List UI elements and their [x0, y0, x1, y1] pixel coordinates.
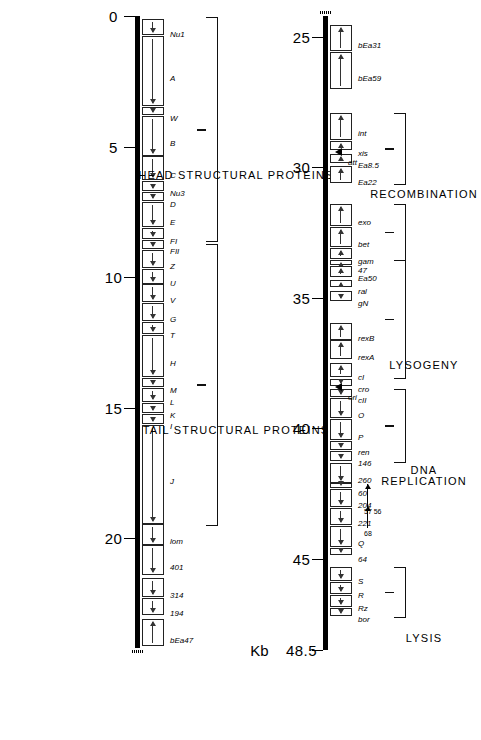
gene-box[interactable]	[142, 598, 164, 615]
gene-box[interactable]	[142, 19, 164, 35]
gene-box[interactable]	[330, 204, 352, 226]
gene-box[interactable]	[142, 228, 164, 239]
gene-label: W	[170, 114, 178, 123]
gene-box[interactable]	[330, 52, 352, 89]
gene-box[interactable]	[142, 378, 164, 387]
gene-box[interactable]	[330, 248, 352, 259]
backbone-line	[323, 16, 328, 650]
axis-tick-label: 45	[282, 550, 322, 567]
gene-direction-arrow-head	[150, 261, 156, 266]
gene-box[interactable]	[142, 269, 164, 284]
gene-direction-arrow-head	[150, 608, 156, 613]
gene-box[interactable]	[142, 116, 164, 156]
gene-box[interactable]	[142, 425, 164, 523]
callout-leader-tip	[365, 506, 371, 511]
function-group-brace	[394, 204, 406, 261]
gene-box[interactable]	[330, 291, 352, 301]
gene-direction-arrow-head	[338, 143, 344, 148]
axis-tick-label: 20	[94, 530, 134, 547]
gene-direction-arrow-head	[338, 443, 344, 448]
gene-direction-arrow-head	[150, 184, 156, 189]
gene-box[interactable]	[142, 403, 164, 413]
gene-box[interactable]	[330, 451, 352, 461]
gene-direction-arrow-head	[338, 433, 344, 438]
gene-label: A	[170, 74, 175, 83]
gene-box[interactable]	[330, 548, 352, 555]
gene-direction-arrow-head	[338, 518, 344, 523]
gene-box[interactable]	[330, 595, 352, 607]
gene-box[interactable]	[330, 25, 352, 51]
gene-box[interactable]	[330, 166, 352, 183]
gene-box[interactable]	[142, 240, 164, 249]
gene-direction-arrow-head	[338, 156, 344, 161]
gene-box[interactable]	[330, 260, 352, 265]
gene-label: 64	[358, 555, 367, 564]
function-group-brace	[206, 17, 218, 242]
axis-unit-label: Kb	[240, 642, 280, 659]
gene-label: ren	[358, 448, 370, 457]
gene-box[interactable]	[330, 526, 352, 547]
gene-box[interactable]	[330, 582, 352, 594]
gene-box[interactable]	[142, 619, 164, 646]
gene-label: Q	[358, 539, 364, 548]
gene-direction-arrow-head	[338, 206, 344, 211]
gene-box[interactable]	[142, 524, 164, 544]
gene-box[interactable]	[142, 107, 164, 115]
gene-label: K	[170, 411, 175, 420]
gene-box[interactable]	[330, 227, 352, 247]
gene-box[interactable]	[330, 489, 352, 506]
gene-box[interactable]	[330, 113, 352, 140]
gene-direction-arrow-head	[338, 609, 344, 614]
site-pointer-arrow	[335, 148, 342, 156]
gene-direction-arrow-head	[338, 250, 344, 255]
gene-label: D	[170, 200, 176, 209]
gene-direction-arrow-head	[338, 294, 344, 299]
gene-box[interactable]	[142, 192, 164, 201]
gene-box[interactable]	[142, 335, 164, 377]
gene-box[interactable]	[142, 202, 164, 227]
gene-label: Nu1	[170, 30, 185, 39]
axis-tick-label: 5	[94, 138, 134, 155]
gene-box[interactable]	[142, 250, 164, 268]
function-group-label-line: LYSOGENY	[314, 359, 481, 371]
gene-direction-arrow-head	[150, 194, 156, 199]
gene-box[interactable]	[330, 280, 352, 288]
axis-tick-label: 30	[282, 159, 322, 176]
gene-label: FII	[170, 247, 179, 256]
gene-box[interactable]	[330, 441, 352, 450]
site-pointer-arrow	[335, 383, 342, 391]
gene-box[interactable]	[330, 567, 352, 581]
gene-direction-arrow-head	[150, 232, 156, 237]
gene-box[interactable]	[330, 419, 352, 440]
gene-box[interactable]	[330, 508, 352, 525]
gene-box[interactable]	[142, 388, 164, 402]
gene-direction-arrow-shaft	[152, 119, 153, 153]
site-label: att	[348, 158, 357, 167]
gene-box[interactable]	[330, 323, 352, 340]
gene-label: bEa47	[170, 636, 193, 645]
gene-box[interactable]	[142, 36, 164, 106]
gene-direction-arrow-head	[150, 220, 156, 225]
gene-direction-arrow-head	[338, 600, 344, 605]
gene-label: Ea22	[358, 178, 377, 187]
gene-box[interactable]	[330, 340, 352, 359]
gene-box[interactable]	[142, 578, 164, 596]
axis-tick-label: 40	[282, 420, 322, 437]
gene-box[interactable]	[330, 608, 352, 616]
gene-box[interactable]	[142, 545, 164, 574]
gene-label: 401	[170, 563, 183, 572]
gene-box[interactable]	[142, 181, 164, 191]
gene-label: J	[170, 477, 174, 486]
gene-direction-arrow-shaft	[152, 338, 153, 374]
backbone-line	[135, 16, 140, 648]
gene-box[interactable]	[330, 266, 352, 277]
gene-box[interactable]	[142, 303, 164, 322]
site-label: ori	[348, 393, 357, 402]
function-group-label-line: RECOMBINATION	[314, 188, 481, 200]
gene-label: rexB	[358, 334, 374, 343]
gene-box[interactable]	[142, 414, 164, 424]
gene-box[interactable]	[142, 322, 164, 334]
gene-label: bor	[358, 615, 370, 624]
gene-label: S	[358, 577, 363, 586]
gene-box[interactable]	[142, 284, 164, 301]
